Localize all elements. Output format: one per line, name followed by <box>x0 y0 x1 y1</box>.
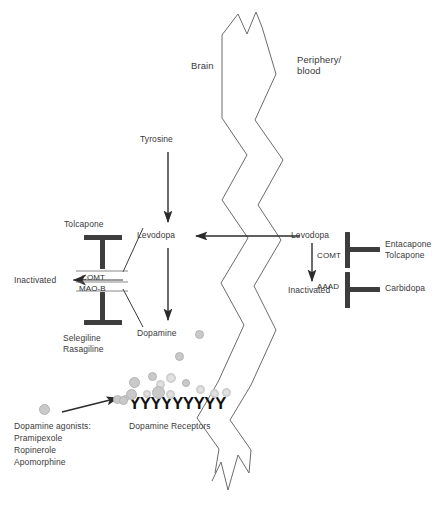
parkinsons-drug-pathway-figure: Brain Periphery/ blood Tyrosine Levodopa… <box>0 0 445 507</box>
dopamine-vesicle <box>152 386 165 399</box>
dopamine-agonist-vesicle <box>119 396 128 405</box>
enzyme-comt-periphery: COMT <box>317 250 341 261</box>
dopamine-vesicle <box>210 389 219 398</box>
drug-rasagiline: Rasagiline <box>63 344 104 355</box>
dopamine-vesicle <box>166 373 176 383</box>
dopamine-vesicle <box>148 372 157 381</box>
node-inactivated-brain: Inactivated <box>14 275 56 286</box>
branch-from-dopamine <box>123 289 143 327</box>
dopamine-vesicle <box>196 385 205 394</box>
label-dopamine-agonists-heading: Dopamine agonists: <box>14 421 91 432</box>
drug-ropinerole: Ropinerole <box>14 445 56 456</box>
drug-tolcapone-periphery: Tolcapone <box>385 250 425 261</box>
node-dopamine-brain: Dopamine <box>137 328 177 339</box>
node-tyrosine: Tyrosine <box>140 134 173 145</box>
inhibitor-bar-carbidopa-aaad <box>345 272 380 308</box>
inhibitor-bar-tolcapone-comt <box>84 235 122 269</box>
label-periphery-compartment: Periphery/ blood <box>297 54 341 76</box>
drug-carbidopa: Carbidopa <box>385 283 425 294</box>
inhibitor-bar-selegiline-rasagiline-mao-b <box>84 292 122 325</box>
drug-pramipexole: Pramipexole <box>14 433 62 444</box>
node-levodopa-periphery: Levodopa <box>291 230 329 241</box>
drug-entacapone: Entacapone <box>385 239 431 250</box>
dopamine-agonist-vesicle <box>39 404 50 415</box>
enzyme-mao-b-brain: MAO-B <box>79 283 106 294</box>
arrow-agonists-to-receptors <box>62 398 118 412</box>
dopamine-vesicle <box>143 390 151 398</box>
drug-apomorphine: Apomorphine <box>14 457 66 468</box>
dopamine-vesicle <box>222 388 231 397</box>
dopamine-vesicle <box>175 352 184 361</box>
enzyme-aaad-periphery: AAAD <box>317 281 339 292</box>
inhibitor-bar-entacapone-tolcapone-comt <box>345 232 380 268</box>
blood-brain-barrier-membrane <box>197 12 283 490</box>
dopamine-vesicle <box>166 390 175 399</box>
label-brain-compartment: Brain <box>191 60 214 71</box>
node-levodopa-brain: Levodopa <box>137 230 175 241</box>
dopamine-vesicle <box>182 379 190 387</box>
enzyme-comt-brain: COMT <box>81 272 105 283</box>
drug-tolcapone-brain: Tolcapone <box>64 219 104 230</box>
drug-selegiline: Selegiline <box>63 333 101 344</box>
label-dopamine-receptors: Dopamine Receptors <box>129 421 211 432</box>
dopamine-vesicle <box>195 330 204 339</box>
dopamine-vesicle <box>129 377 140 388</box>
